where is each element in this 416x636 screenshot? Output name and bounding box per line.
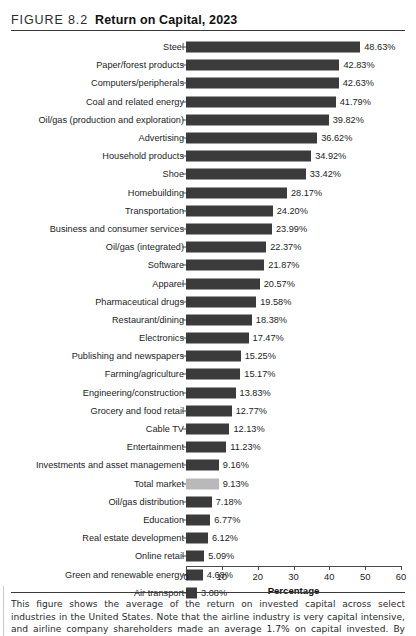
chart-row: Cable TV12.13% — [0, 420, 416, 438]
category-label: Education — [143, 515, 184, 525]
bar-value-label: 13.83% — [240, 388, 271, 398]
bar — [186, 187, 287, 198]
bar — [186, 460, 219, 471]
chart-row: Household products34.92% — [0, 147, 416, 165]
category-label: Oil/gas (production and exploration) — [38, 115, 184, 125]
bar-value-label: 22.37% — [270, 242, 301, 252]
x-tick-mark — [329, 566, 330, 570]
bar-value-label: 11.23% — [230, 442, 260, 452]
bar — [186, 551, 204, 562]
category-label: Farming/agriculture — [105, 369, 184, 379]
figure-title: Return on Capital, 2023 — [95, 13, 237, 27]
bar-value-label: 39.82% — [333, 115, 364, 125]
chart-row: Coal and related energy41.79% — [0, 93, 416, 111]
bar-value-label: 12.13% — [233, 424, 264, 434]
bar-value-label: 17.47% — [253, 333, 284, 343]
x-tick-mark — [401, 566, 402, 570]
figure-number: FIGURE 8.2 — [11, 13, 88, 27]
bar — [186, 351, 241, 362]
x-axis-label: Percentage — [186, 585, 401, 596]
bar — [186, 133, 317, 144]
category-label: Household products — [102, 151, 184, 161]
bar — [186, 387, 236, 398]
chart-row: Transportation24.20% — [0, 202, 416, 220]
category-label: Pharmaceutical drugs — [95, 297, 184, 307]
chart-row: Electronics17.47% — [0, 329, 416, 347]
chart-row: Shoe33.42% — [0, 165, 416, 183]
x-tick-mark — [294, 566, 295, 570]
chart-row: Grocery and food retail12.77% — [0, 402, 416, 420]
bar — [186, 114, 329, 125]
bar — [186, 333, 249, 344]
bar — [186, 223, 272, 234]
category-label: Engineering/construction — [83, 388, 184, 398]
bar-value-label: 18.38% — [256, 315, 287, 325]
category-label: Electronics — [139, 333, 184, 343]
x-tick-label: 0 — [183, 571, 188, 582]
chart-rows: Steel48.63%Paper/forest products42.83%Co… — [0, 38, 416, 602]
bar — [186, 496, 212, 507]
bar — [186, 296, 256, 307]
bar — [186, 78, 339, 89]
bar — [186, 405, 232, 416]
bar-value-label: 20.57% — [264, 279, 295, 289]
bar — [186, 96, 336, 107]
bar-value-label: 6.77% — [214, 515, 240, 525]
chart-row: Oil/gas (production and exploration)39.8… — [0, 111, 416, 129]
category-label: Software — [148, 260, 184, 270]
bar — [186, 60, 339, 71]
category-label: Publishing and newspapers — [72, 351, 184, 361]
x-tick-label: 30 — [288, 571, 298, 582]
category-label: Steel — [163, 42, 184, 52]
category-label: Transportation — [125, 206, 184, 216]
bar-value-label: 15.25% — [245, 351, 276, 361]
chart-row: Education6.77% — [0, 511, 416, 529]
bar-value-label: 9.13% — [223, 479, 249, 489]
chart-row: Farming/agriculture15.17% — [0, 365, 416, 383]
bar-value-label: 34.92% — [315, 151, 346, 161]
category-label: Computers/peripherals — [91, 78, 184, 88]
chart-row: Software21.87% — [0, 256, 416, 274]
chart-row: Business and consumer services23.99% — [0, 220, 416, 238]
category-label: Total market — [134, 479, 184, 489]
bar-value-label: 42.63% — [343, 78, 374, 88]
bar-value-label: 41.79% — [340, 97, 371, 107]
x-tick-label: 50 — [360, 571, 370, 582]
figure-page: FIGURE 8.2Return on Capital, 2023 Steel4… — [0, 0, 416, 636]
bar-value-label: 36.62% — [321, 133, 352, 143]
figure-header: FIGURE 8.2Return on Capital, 2023 — [11, 10, 406, 26]
bar — [186, 514, 210, 525]
chart-row: Entertainment11.23% — [0, 438, 416, 456]
bar — [186, 533, 208, 544]
x-tick-label: 20 — [252, 571, 262, 582]
x-tick-mark — [222, 566, 223, 570]
x-tick-label: 40 — [324, 571, 334, 582]
category-label: Real estate development — [82, 533, 184, 543]
caption-divider — [11, 592, 405, 593]
x-tick-label: 10 — [217, 571, 227, 582]
chart-row: Paper/forest products42.83% — [0, 56, 416, 74]
bar-value-label: 15.17% — [244, 369, 275, 379]
bar-value-label: 7.18% — [216, 497, 242, 507]
bar-value-label: 42.83% — [343, 60, 374, 70]
bar-value-label: 24.20% — [277, 206, 308, 216]
bar-value-label: 23.99% — [276, 224, 307, 234]
chart-row: Homebuilding28.17% — [0, 184, 416, 202]
bar-value-label: 28.17% — [291, 188, 322, 198]
bar — [186, 151, 311, 162]
category-label: Paper/forest products — [96, 60, 184, 70]
bar — [186, 314, 252, 325]
title-divider — [11, 30, 405, 31]
category-label: Oil/gas distribution — [108, 497, 184, 507]
chart-row: Pharmaceutical drugs19.58% — [0, 293, 416, 311]
chart-row: Online retail5.09% — [0, 547, 416, 565]
category-label: Apparel — [152, 279, 184, 289]
category-label: Online retail — [135, 551, 184, 561]
bar — [186, 369, 240, 380]
chart-row: Steel48.63% — [0, 38, 416, 56]
bar — [186, 169, 306, 180]
category-label: Cable TV — [146, 424, 184, 434]
category-label: Business and consumer services — [50, 224, 184, 234]
category-label: Oil/gas (integrated) — [106, 242, 184, 252]
category-label: Entertainment — [127, 442, 184, 452]
